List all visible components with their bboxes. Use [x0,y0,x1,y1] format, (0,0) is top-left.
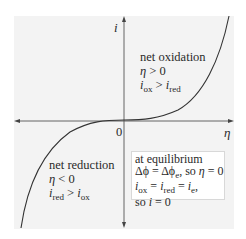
oxidation-title: net oxidation [140,51,206,64]
oxidation-condition: η > 0 [140,65,166,78]
arrow-down-icon [122,222,126,228]
vertical-axis [122,16,126,228]
y-axis-label: i [114,21,118,34]
arrow-right-icon [228,119,234,123]
oxidation-relation: iox > ired [140,79,181,96]
x-axis-label: η [224,126,230,139]
equilibrium-box: at equilibrium Δϕ = Δϕe, so η = 0 iox = … [131,151,225,200]
equilibrium-zero-current-line: so i = 0 [135,197,224,209]
reduction-title: net reduction [49,159,115,172]
arrow-left-icon [14,119,20,123]
origin-label: 0 [116,126,122,139]
reduction-relation: ired > iox [49,187,90,204]
arrow-up-icon [122,16,126,22]
reduction-condition: η < 0 [49,173,75,186]
